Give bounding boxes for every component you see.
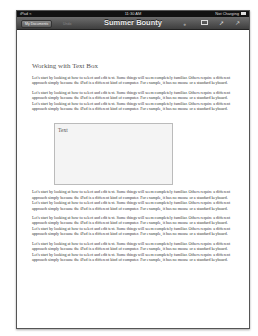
media-icon[interactable]	[201, 20, 208, 25]
text-box-content[interactable]: Text	[58, 127, 68, 133]
document-page[interactable]: Working with Text Box Let's start by loo…	[17, 30, 249, 328]
document-content: Working with Text Box Let's start by loo…	[32, 62, 234, 266]
text-box[interactable]: Text	[54, 123, 173, 185]
toolbar: My Documents Undo Summer Bounty ● ➚ ↗	[17, 17, 249, 30]
paragraph[interactable]: Let's start by looking at how to select …	[32, 215, 234, 237]
paragraph[interactable]: Let's start by looking at how to select …	[32, 75, 234, 86]
battery-status-text: Not Charging	[215, 11, 239, 16]
expand-icon[interactable]: ↗	[235, 19, 240, 27]
paragraph[interactable]: Let's start by looking at how to select …	[32, 241, 234, 263]
wrench-icon[interactable]: ➚	[219, 19, 224, 27]
paragraph[interactable]: Let's start by looking at how to select …	[32, 90, 234, 112]
document-title: Summer Bounty	[17, 17, 249, 29]
battery-icon	[241, 12, 246, 15]
document-heading[interactable]: Working with Text Box	[32, 62, 234, 71]
info-icon[interactable]: ●	[183, 20, 186, 28]
ipad-screen: iPad ≈ 11:30 AM Not Charging My Document…	[16, 10, 250, 329]
paragraph[interactable]: Let's start by looking at how to select …	[32, 189, 234, 211]
